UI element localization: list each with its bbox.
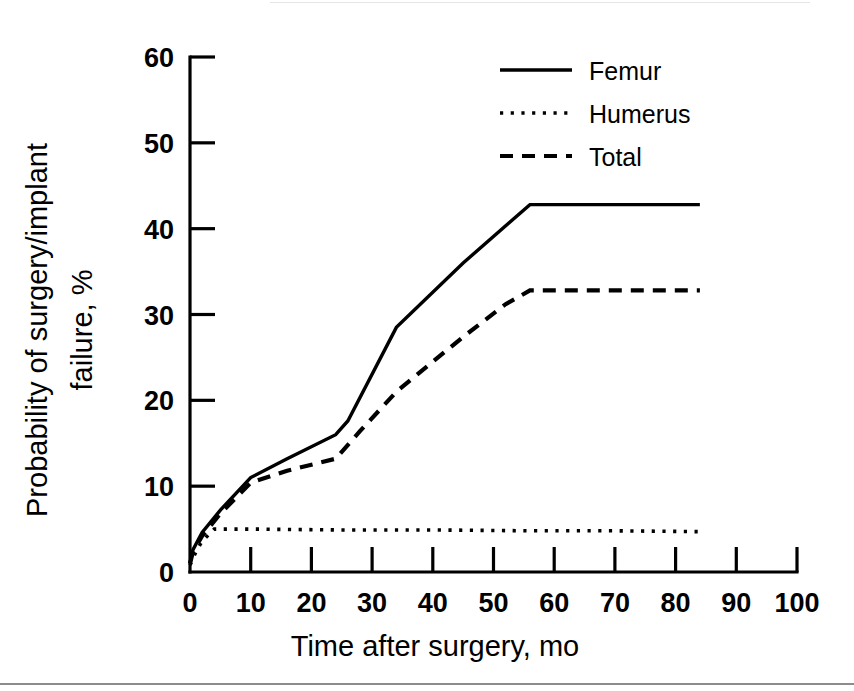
- x-tick-label: 70: [600, 588, 630, 618]
- x-tick-label: 20: [296, 588, 326, 618]
- bottom-divider-rule: [0, 683, 854, 685]
- y-tick-label: 40: [144, 215, 174, 245]
- data-series-group: [190, 205, 700, 566]
- chart-legend: FemurHumerusTotal: [500, 57, 690, 171]
- x-tick-label: 10: [236, 588, 266, 618]
- failure-probability-line-chart: 0102030405060 0102030405060708090100 Fem…: [0, 0, 854, 691]
- x-tick-label: 30: [357, 588, 387, 618]
- x-axis-title: Time after surgery, mo: [291, 630, 579, 662]
- series-line-humerus: [190, 529, 700, 565]
- y-axis-title-line1: Probability of surgery/implant: [21, 143, 53, 517]
- y-tick-label: 30: [144, 301, 174, 331]
- y-axis-tick-labels: 0102030405060: [144, 43, 174, 588]
- y-tick-label: 0: [159, 558, 174, 588]
- legend-label-humerus: Humerus: [589, 100, 690, 128]
- series-line-total: [190, 290, 700, 563]
- legend-label-femur: Femur: [589, 57, 661, 85]
- y-tick-label: 60: [144, 43, 174, 73]
- x-tick-label: 50: [478, 588, 508, 618]
- x-tick-label: 100: [774, 588, 819, 618]
- y-axis-title-line2: failure, %: [66, 270, 98, 391]
- x-axis-ticks: [251, 547, 797, 572]
- y-tick-label: 20: [144, 386, 174, 416]
- x-tick-label: 90: [721, 588, 751, 618]
- y-tick-label: 10: [144, 472, 174, 502]
- figure-container: 0102030405060 0102030405060708090100 Fem…: [0, 0, 854, 691]
- legend-label-total: Total: [589, 143, 642, 171]
- x-tick-label: 80: [661, 588, 691, 618]
- x-tick-label: 0: [182, 588, 197, 618]
- top-divider-rule: [270, 2, 810, 3]
- y-tick-label: 50: [144, 129, 174, 159]
- x-axis-tick-labels: 0102030405060708090100: [182, 588, 819, 618]
- x-tick-label: 60: [539, 588, 569, 618]
- y-axis-ticks: [190, 57, 215, 486]
- x-tick-label: 40: [418, 588, 448, 618]
- series-line-femur: [190, 205, 700, 564]
